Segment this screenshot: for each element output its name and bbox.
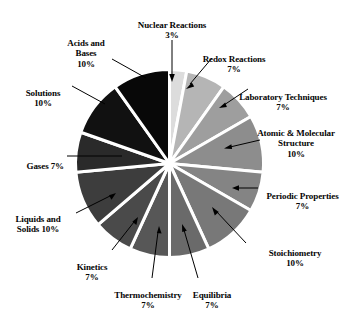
label-stoichiometry-pct: 10% (243, 258, 347, 268)
label-stoichiometry: Stoichiometry 10% (243, 238, 347, 279)
label-periodic-properties: Periodic Properties 7% (250, 181, 355, 222)
label-periodic-properties-text: Periodic Properties (266, 191, 338, 201)
label-acids-and-bases: Acids and Bases 10% (52, 28, 120, 79)
label-gases-text: Gases 7% (27, 161, 64, 171)
label-kinetics-pct: 7% (54, 272, 130, 282)
label-equilibria-text: Equilibria (193, 290, 232, 300)
label-laboratory-techniques-text: Laboratory Techniques (239, 92, 327, 102)
label-periodic-properties-pct: 7% (250, 201, 355, 211)
pie-chart: Nuclear Reactions 3% Redox Reactions 7% … (0, 0, 355, 322)
label-atomic-molecular-structure-pct: 10% (237, 149, 355, 159)
label-atomic-molecular-structure-text: Atomic & Molecular Structure (257, 128, 335, 148)
label-laboratory-techniques: Laboratory Techniques 7% (211, 82, 355, 123)
label-redox-reactions-pct: 7% (178, 64, 290, 74)
label-nuclear-reactions-pct: 3% (108, 30, 236, 40)
label-liquids-and-solids: Liquids and Solids 10% (0, 204, 76, 235)
label-nuclear-reactions-text: Nuclear Reactions (138, 20, 206, 30)
label-redox-reactions: Redox Reactions 7% (178, 44, 290, 85)
label-solutions-pct: 10% (8, 98, 78, 108)
label-acids-and-bases-pct: 10% (52, 59, 120, 69)
label-liquids-and-solids-text: Liquids and Solids 10% (15, 214, 60, 234)
label-stoichiometry-text: Stoichiometry (269, 248, 322, 258)
label-thermochemistry-pct: 7% (99, 300, 197, 310)
label-solutions-text: Solutions (26, 88, 61, 98)
label-acids-and-bases-text: Acids and Bases (67, 38, 104, 58)
label-atomic-molecular-structure: Atomic & Molecular Structure 10% (237, 118, 355, 169)
label-laboratory-techniques-pct: 7% (211, 102, 355, 112)
label-kinetics-text: Kinetics (77, 262, 108, 272)
label-redox-reactions-text: Redox Reactions (203, 54, 266, 64)
label-kinetics: Kinetics 7% (54, 252, 130, 293)
label-solutions: Solutions 10% (8, 78, 78, 119)
label-gases: Gases 7% (0, 151, 64, 171)
